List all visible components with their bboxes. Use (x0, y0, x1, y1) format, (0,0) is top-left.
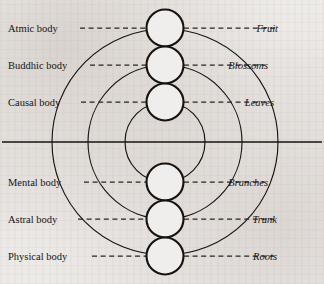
right-tree-label: Fruit (255, 23, 279, 34)
body-node-circle (147, 10, 184, 47)
right-tree-label: Trunk (252, 214, 277, 225)
scanned-page-figure: Atmic bodyBuddhic bodyCausal bodyMental … (0, 0, 324, 284)
left-body-label: Mental body (8, 177, 62, 188)
body-node-circle (147, 84, 184, 121)
body-node-circle (147, 47, 184, 84)
left-body-label: Buddhic body (8, 60, 68, 71)
body-node-circle (147, 201, 184, 238)
right-tree-label: Branches (228, 177, 268, 188)
left-body-label: Atmic body (8, 23, 59, 34)
left-body-label: Astral body (8, 214, 58, 225)
left-body-label: Physical body (8, 251, 68, 262)
right-tree-label: Roots (252, 251, 277, 262)
right-tree-label: Leaves (244, 97, 274, 108)
body-node-circle (147, 164, 184, 201)
body-node-circle (147, 238, 184, 275)
right-tree-label: Blossoms (228, 60, 268, 71)
left-body-label: Causal body (8, 97, 61, 108)
tree-of-bodies-diagram: Atmic bodyBuddhic bodyCausal bodyMental … (0, 0, 324, 284)
